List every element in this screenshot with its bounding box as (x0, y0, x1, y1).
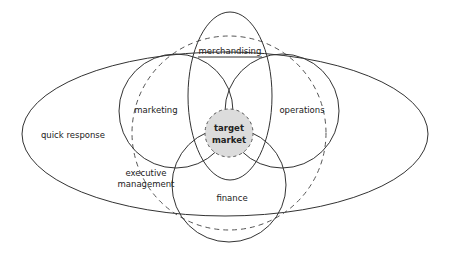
venn-diagram: quick response merchandising marketing o… (0, 0, 450, 254)
executive-management-label-line2: management (118, 179, 176, 189)
target-market-label-line2: market (212, 135, 246, 145)
quick-response-label: quick response (41, 130, 105, 140)
finance-label: finance (216, 193, 247, 203)
marketing-label: marketing (134, 105, 177, 115)
executive-management-label-line1: executive (125, 168, 166, 178)
target-market-circle (205, 109, 253, 157)
operations-label: operations (279, 105, 325, 115)
merchandising-label: merchandising (199, 46, 262, 56)
target-market-label-line1: target (214, 123, 244, 133)
